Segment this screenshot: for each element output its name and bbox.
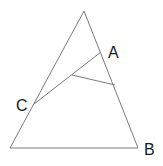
outer-triangle bbox=[10, 11, 138, 148]
triangle-diagram: A C B bbox=[0, 0, 163, 166]
c-to-a-segment bbox=[34, 52, 101, 104]
label-a: A bbox=[108, 44, 119, 61]
label-b: B bbox=[144, 141, 155, 158]
interior-to-right-segment bbox=[72, 75, 115, 85]
label-c: C bbox=[16, 97, 28, 114]
